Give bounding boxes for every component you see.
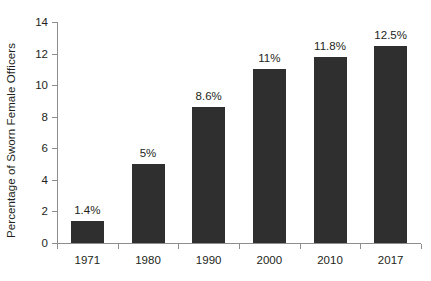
y-tick-label: 2 (8, 205, 48, 217)
bar-value-label-1990: 8.6% (179, 90, 239, 102)
y-tick-label: 0 (8, 237, 48, 249)
y-tick-mark (52, 54, 57, 55)
bar-1990 (192, 107, 225, 243)
bar-2010 (314, 57, 347, 243)
y-tick-label: 8 (8, 111, 48, 123)
y-tick-label: 4 (8, 174, 48, 186)
bar-1971 (71, 221, 104, 243)
y-tick-label: 6 (8, 142, 48, 154)
x-tick-mark (118, 244, 119, 249)
y-tick-mark (52, 117, 57, 118)
x-tick-label-1971: 1971 (57, 254, 117, 266)
bar-value-label-1980: 5% (118, 147, 178, 159)
y-tick-label: 10 (8, 79, 48, 91)
x-tick-label-2010: 2010 (300, 254, 360, 266)
x-tick-mark (57, 244, 58, 249)
y-tick-mark (52, 85, 57, 86)
y-tick-mark (52, 211, 57, 212)
x-tick-mark (421, 244, 422, 249)
bar-value-label-1971: 1.4% (57, 204, 117, 216)
bar-2017 (374, 46, 407, 243)
bar-value-label-2017: 12.5% (361, 29, 421, 41)
bar-1980 (132, 164, 165, 243)
y-tick-mark (52, 148, 57, 149)
x-tick-mark (239, 244, 240, 249)
x-tick-mark (300, 244, 301, 249)
bar-chart: Percentage of Sworn Female Officers 0246… (0, 0, 431, 281)
x-tick-label-2017: 2017 (361, 254, 421, 266)
x-tick-label-2000: 2000 (239, 254, 299, 266)
bar-2000 (253, 69, 286, 243)
y-tick-mark (52, 22, 57, 23)
bar-value-label-2000: 11% (239, 52, 299, 64)
x-tick-mark (178, 244, 179, 249)
y-tick-mark (52, 180, 57, 181)
x-tick-mark (360, 244, 361, 249)
x-tick-label-1990: 1990 (179, 254, 239, 266)
y-tick-label: 12 (8, 48, 48, 60)
bar-value-label-2010: 11.8% (300, 40, 360, 52)
x-tick-label-1980: 1980 (118, 254, 178, 266)
y-tick-label: 14 (8, 16, 48, 28)
